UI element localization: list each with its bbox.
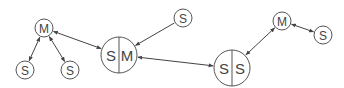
edge-m1-s1-bidirectional-arrow — [29, 37, 40, 61]
node-m2: M — [273, 12, 291, 30]
node-s2: S — [61, 61, 79, 79]
edge-m1-sm-bidirectional-arrow — [53, 31, 101, 48]
edge-ss-m2-bidirectional-arrow — [246, 28, 275, 55]
edge-m2-s4-bidirectional-arrow — [291, 24, 313, 32]
node-sm: SM — [101, 37, 137, 73]
node-label: S — [66, 64, 74, 78]
nodes-layer: MSSSMSSSMS — [16, 9, 332, 86]
edges-layer — [29, 23, 313, 66]
node-s4: S — [314, 26, 332, 44]
replication-topology-diagram: MSSSMSSSMS — [0, 0, 344, 88]
edge-s3-sm-arrow — [135, 23, 174, 45]
node-label: S — [21, 64, 29, 78]
node-ss: SS — [214, 50, 250, 86]
edge-ss-sm-bidirectional-arrow — [138, 57, 213, 66]
node-label-left: S — [219, 60, 229, 77]
node-m1: M — [35, 19, 53, 37]
node-s1: S — [16, 61, 34, 79]
node-s3: S — [174, 9, 192, 27]
node-label: M — [277, 15, 287, 29]
node-label-right: M — [121, 47, 134, 64]
edge-m1-s2-bidirectional-arrow — [49, 37, 64, 62]
node-label-right: S — [235, 60, 245, 77]
node-label: S — [319, 29, 327, 43]
node-label: S — [179, 12, 187, 26]
node-label: M — [39, 22, 49, 36]
node-label-left: S — [106, 47, 116, 64]
